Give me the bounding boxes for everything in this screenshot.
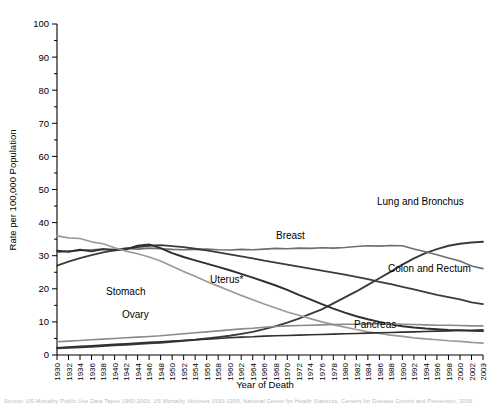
x-tick-label: 1956 [203,362,212,380]
series-label-ovary: Ovary [122,309,149,320]
x-tick-label: 1976 [318,362,327,380]
series-labels: Lung and BronchusBreastColon and RectumU… [106,196,471,330]
x-tick-label: 1948 [157,362,166,380]
x-axis: 1930193219341936193819401942194419461948… [53,355,488,381]
y-tick-label: 30 [38,250,49,261]
x-tick-label: 1946 [145,362,154,380]
x-tick-label: 1950 [168,362,177,380]
x-tick-label: 1958 [214,362,223,380]
x-tick-label: 1992 [410,362,419,380]
series-label-colon-and-rectum: Colon and Rectum [388,263,471,274]
x-tick-label: 1990 [399,362,408,380]
x-tick-label: 1984 [364,362,373,380]
x-tick-label: 1942 [122,362,131,380]
y-tick-label: 60 [38,151,49,162]
series-label-breast: Breast [276,230,305,241]
x-tick-label: 1978 [330,362,339,380]
x-tick-label: 1988 [387,362,396,380]
y-tick-label: 80 [38,85,49,96]
x-tick-label: 1932 [65,362,74,380]
x-tick-label: 1974 [306,362,315,380]
x-tick-label: 2000 [456,362,465,380]
y-tick-label: 70 [38,118,49,129]
chart-footnote: Source: US Mortality Public Use Data Tap… [4,398,474,404]
x-axis-title: Year of Death [236,379,294,390]
x-tick-label: 1982 [353,362,362,380]
x-tick-label: 1986 [376,362,385,380]
y-tick-label: 100 [33,18,49,29]
x-tick-label: 1936 [88,362,97,380]
x-tick-label: 1972 [295,362,304,380]
x-tick-label: 1954 [191,362,200,380]
y-tick-label: 0 [44,349,49,360]
x-tick-label: 2003 [479,362,488,380]
y-tick-label: 10 [38,316,49,327]
x-tick-label: 1944 [134,362,143,380]
series-label-stomach: Stomach [106,286,145,297]
x-tick-label: 1930 [53,362,62,380]
x-tick-label: 1980 [341,362,350,380]
y-axis: 0102030405060708090100 [33,18,57,360]
y-tick-label: 40 [38,217,49,228]
x-tick-label: 1952 [180,362,189,380]
y-tick-label: 50 [38,184,49,195]
x-tick-label: 2002 [468,362,477,380]
series-label-pancreas: Pancreas [354,319,396,330]
x-tick-label: 1938 [99,362,108,380]
x-tick-label: 1940 [111,362,120,380]
x-tick-label: 1998 [445,362,454,380]
y-tick-label: 20 [38,283,49,294]
x-tick-label: 1994 [422,362,431,380]
series-label-uterus: Uterus* [210,274,243,285]
series-label-lung-and-bronchus: Lung and Bronchus [377,196,464,207]
y-tick-label: 90 [38,52,49,63]
x-tick-label: 1934 [76,362,85,380]
y-axis-title: Rate per 100,000 Population [7,130,18,251]
x-tick-label: 1960 [226,362,235,380]
x-tick-label: 1996 [433,362,442,380]
